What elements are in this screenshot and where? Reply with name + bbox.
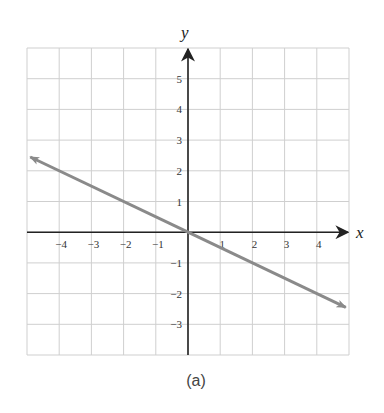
svg-text:1: 1: [177, 196, 183, 208]
svg-text:−1: −1: [152, 238, 164, 250]
svg-text:−2: −2: [170, 288, 182, 300]
svg-text:4: 4: [316, 238, 322, 250]
svg-text:3: 3: [177, 134, 183, 146]
x-axis-label: x: [355, 223, 364, 242]
svg-text:−3: −3: [88, 238, 100, 250]
svg-text:4: 4: [177, 103, 183, 115]
coordinate-plane: −4−3−2−1123454321−1−2−3 x y: [0, 0, 384, 413]
svg-text:5: 5: [177, 73, 183, 85]
svg-text:−1: −1: [170, 257, 182, 269]
svg-text:−2: −2: [120, 238, 132, 250]
svg-text:3: 3: [284, 238, 290, 250]
figure-caption: (a): [0, 372, 384, 390]
y-axis-label: y: [179, 23, 189, 42]
svg-text:−3: −3: [170, 318, 182, 330]
svg-text:−4: −4: [55, 238, 67, 250]
svg-text:2: 2: [252, 238, 258, 250]
svg-text:2: 2: [177, 165, 183, 177]
